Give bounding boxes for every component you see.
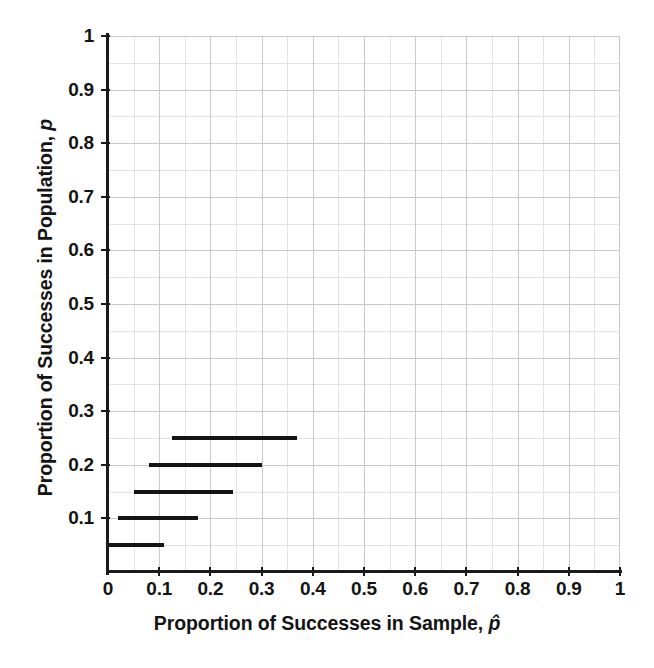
y-axis-title: Proportion of Successes in Population, p: [34, 0, 57, 618]
gridline-vertical-major: [569, 36, 570, 572]
y-tick-mark: [101, 249, 110, 251]
x-tick-mark: [619, 567, 621, 576]
x-tick-mark: [465, 567, 467, 576]
y-axis-title-text: Proportion of Successes in Population,: [34, 131, 56, 497]
y-tick-mark: [101, 89, 110, 91]
x-axis-title-symbol: p̂: [488, 612, 500, 634]
interval-segment: [172, 436, 297, 440]
x-tick-mark: [261, 567, 263, 576]
x-tick-mark: [209, 567, 211, 576]
y-tick-mark: [101, 517, 110, 519]
y-tick-mark: [101, 196, 110, 198]
interval-segment: [149, 463, 262, 467]
x-tick-mark: [158, 567, 160, 576]
x-tick-label: 1: [590, 578, 650, 600]
x-tick-mark: [517, 567, 519, 576]
y-axis-title-symbol: p: [34, 119, 56, 131]
x-tick-mark: [568, 567, 570, 576]
y-tick-mark: [101, 357, 110, 359]
plot-area: [108, 36, 620, 572]
interval-segment: [134, 490, 234, 494]
x-tick-mark: [414, 567, 416, 576]
y-tick-mark: [101, 142, 110, 144]
interval-segment: [108, 543, 164, 547]
gridline-vertical-major: [518, 36, 519, 572]
gridline-horizontal-major: [108, 304, 620, 305]
x-tick-mark: [312, 567, 314, 576]
y-tick-mark: [101, 464, 110, 466]
gridline-vertical-major: [466, 36, 467, 572]
gridline-vertical-major: [619, 36, 620, 572]
y-tick-mark: [101, 303, 110, 305]
x-tick-mark: [363, 567, 365, 576]
chart-figure: 0.10.20.30.40.50.60.70.80.91 00.10.20.30…: [0, 0, 654, 668]
x-axis-title-text: Proportion of Successes in Sample,: [154, 612, 489, 634]
y-tick-mark: [101, 35, 110, 37]
gridline-horizontal-major: [108, 36, 620, 37]
gridline-horizontal-major: [108, 197, 620, 198]
gridline-vertical-major: [415, 36, 416, 572]
gridline-horizontal-major: [108, 90, 620, 91]
gridline-horizontal-major: [108, 143, 620, 144]
y-tick-mark: [101, 410, 110, 412]
x-axis-title: Proportion of Successes in Sample, p̂: [0, 612, 654, 635]
gridline-horizontal-major: [108, 250, 620, 251]
interval-segment: [118, 516, 197, 520]
